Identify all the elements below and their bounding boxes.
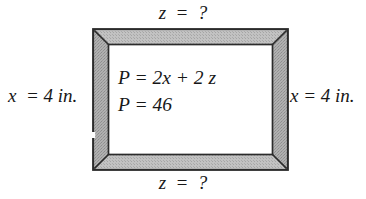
frame-left-bevel xyxy=(94,30,108,168)
bottom-edge-label: z = ? xyxy=(0,172,366,194)
frame-right-bevel xyxy=(273,30,287,168)
perimeter-value-line: P = 46 xyxy=(118,91,268,118)
formula-block: P = 2x + 2 z P = 46 xyxy=(118,64,268,130)
frame-bottom-bevel xyxy=(94,155,286,169)
left-edge-label: x = 4 in. xyxy=(8,85,90,107)
frame-left-edge-nick xyxy=(92,132,95,138)
frame-top-bevel xyxy=(94,30,286,44)
figure-canvas: z = ? x = 4 in. x = 4 in. z = ? xyxy=(0,0,366,199)
right-edge-label: x = 4 in. xyxy=(290,85,366,107)
top-edge-label: z = ? xyxy=(0,2,366,24)
perimeter-formula-line: P = 2x + 2 z xyxy=(118,64,268,91)
